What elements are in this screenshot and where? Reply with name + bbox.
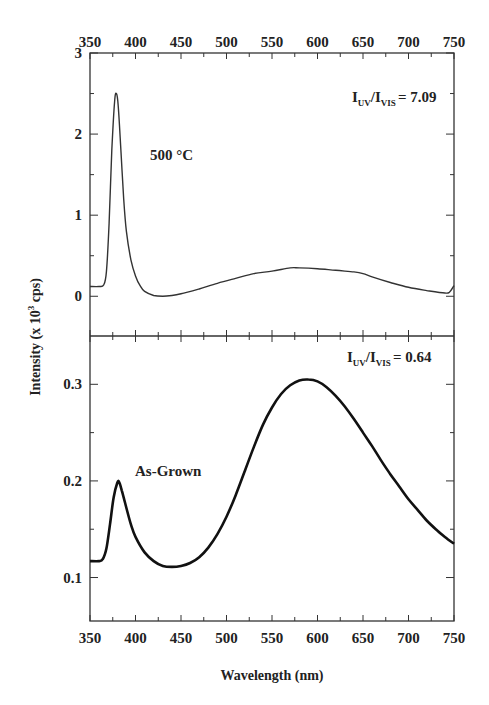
x-tick-label-bottom: 650 — [352, 630, 375, 646]
x-tick-label-bottom: 350 — [79, 630, 102, 646]
y-tick-label: 2 — [75, 126, 83, 142]
annotation-as-grown: As-Grown — [135, 463, 202, 479]
x-tick-label-top: 650 — [352, 34, 375, 50]
x-tick-label-bottom: 750 — [443, 630, 466, 646]
y-tick-label: 0.3 — [63, 376, 82, 392]
x-tick-label-bottom: 550 — [261, 630, 284, 646]
annotation-500c: 500 °C — [150, 147, 193, 163]
x-tick-label-bottom: 700 — [397, 630, 420, 646]
axis-labels: 01233504004505005506006507007500.10.20.3… — [63, 34, 465, 646]
x-tick-label-bottom: 400 — [124, 630, 147, 646]
y-label-main: Intensity (x 10 — [28, 310, 44, 396]
y-tick-label: 1 — [75, 207, 83, 223]
x-tick-label-top: 400 — [124, 34, 147, 50]
y-label-tail: cps) — [28, 278, 44, 306]
x-tick-label-bottom: 500 — [215, 630, 238, 646]
x-tick-label-bottom: 600 — [306, 630, 329, 646]
x-tick-label-top: 350 — [79, 34, 102, 50]
x-tick-label-top: 700 — [397, 34, 420, 50]
ratio-sub-vis: VIS — [381, 98, 396, 108]
ratio-sub-uv: UV — [358, 98, 371, 108]
x-tick-label-bottom: 450 — [170, 630, 193, 646]
ratio-sub-uv: UV — [353, 358, 366, 368]
x-tick-label-top: 550 — [261, 34, 284, 50]
axis-ticks — [90, 53, 454, 621]
y-tick-label: 0 — [75, 288, 83, 304]
x-tick-label-top: 450 — [170, 34, 193, 50]
ratio-label-bottom: IUV/IVIS= 0.64 — [347, 349, 432, 368]
y-tick-label: 0.1 — [63, 570, 82, 586]
x-axis-label: Wavelength (nm) — [220, 668, 323, 684]
x-tick-label-top: 500 — [215, 34, 238, 50]
spectra-figure: 01233504004505005506006507007500.10.20.3… — [0, 0, 489, 705]
ratio-label-top: IUV/IVIS= 7.09 — [352, 89, 436, 108]
y-tick-label: 0.2 — [63, 473, 82, 489]
y-axis-label: Intensity (x 103 cps) — [26, 278, 44, 396]
curve-500c — [90, 93, 454, 296]
x-tick-label-top: 600 — [306, 34, 329, 50]
x-tick-label-top: 750 — [443, 34, 466, 50]
ratio-value: = 7.09 — [398, 89, 437, 105]
ratio-sub-vis: VIS — [376, 358, 391, 368]
ratio-value: = 0.64 — [393, 349, 432, 365]
